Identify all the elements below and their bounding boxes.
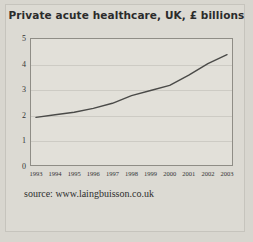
y-tick-label-3: 3 — [14, 85, 26, 94]
y-tick-label-4: 4 — [14, 59, 26, 68]
page-title: Private acute healthcare, UK, £ billions — [0, 9, 253, 21]
y-tick-label-0: 0 — [14, 162, 26, 171]
x-tick-label-1998: 1998 — [125, 170, 138, 177]
x-tick-label-1993: 1993 — [30, 170, 43, 177]
x-tick-label-1994: 1994 — [49, 170, 62, 177]
x-axis-labels: 1993199419951996199719981999200020012002… — [30, 170, 233, 182]
y-tick-label-2: 2 — [14, 110, 26, 119]
source-note: source: www.laingbuisson.co.uk — [24, 188, 154, 199]
x-tick-label-2000: 2000 — [163, 170, 176, 177]
x-tick-label-1995: 1995 — [68, 170, 81, 177]
plot-region — [30, 38, 233, 166]
y-tick-label-5: 5 — [14, 34, 26, 43]
chart-figure: Private acute healthcare, UK, £ billions… — [0, 0, 253, 242]
x-tick-label-2002: 2002 — [201, 170, 214, 177]
x-tick-label-2003: 2003 — [221, 170, 234, 177]
data-line-series — [30, 38, 233, 166]
y-tick-label-1: 1 — [14, 136, 26, 145]
x-tick-label-1999: 1999 — [144, 170, 157, 177]
x-tick-label-1997: 1997 — [106, 170, 119, 177]
x-tick-label-1996: 1996 — [87, 170, 100, 177]
x-tick-label-2001: 2001 — [182, 170, 195, 177]
